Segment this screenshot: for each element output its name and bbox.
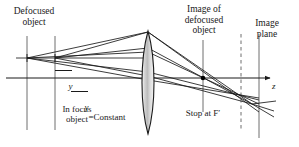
infocus-image-ray-top	[148, 32, 252, 104]
optics-ray-diagram-figure: Defocused object In focus object y y =Co…	[0, 0, 299, 147]
y-bar-glyph-2: y	[71, 92, 89, 122]
infocus-image-ray-lower	[148, 76, 252, 104]
stop-point-marker	[201, 76, 206, 81]
label-equals-constant: =Constant	[89, 112, 126, 122]
stop-at-f-prime-dot	[201, 76, 206, 81]
infocus-image-ray-extend-a	[252, 104, 274, 111]
converging-lens	[142, 31, 154, 134]
label-z-axis: z	[272, 81, 276, 91]
image-side-rays-in-focus	[148, 32, 276, 117]
label-stop-at-f-prime: Stop at F′	[165, 108, 241, 118]
label-image-of-defocused-object: Image of defocused object	[168, 4, 240, 36]
infocus-image-ray-extend-b	[252, 104, 274, 117]
defocused-ray-to-lens-upper	[27, 52, 148, 58]
label-image-plane: Image plane	[240, 18, 294, 39]
label-defocused-object: Defocused object	[0, 6, 71, 27]
label-y-symbol-2: y	[85, 102, 89, 112]
lens-body	[142, 31, 154, 134]
label-y-bar-constant: y =Constant	[62, 82, 126, 132]
